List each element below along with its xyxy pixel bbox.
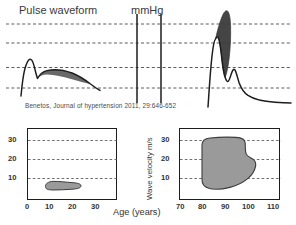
citation-text: Benetos, Journal of hypertension 2011, 2… [25,103,176,109]
pulse-waveform-panel: Pulse waveform mmHg [0,0,296,112]
chart-left-gridlines [28,141,118,179]
data-region-old [202,137,256,189]
chart-right-ytick-10: 10 [161,174,169,182]
chart-left-xtick-30: 30 [91,203,99,211]
chart-left-xtick-20: 20 [68,203,76,211]
page-title: Pulse waveform [19,5,97,16]
chart-right-ytick-30: 30 [161,136,169,144]
waveform-young [21,59,100,96]
chart-left-ytick-10: 10 [8,174,16,182]
waveform-elderly [208,11,291,107]
chart-left-ytick-30: 30 [8,136,16,144]
pressure-trace-elderly [208,37,291,107]
chart-left-ytick-20: 20 [8,155,16,163]
chart-right-xtick-90: 90 [221,203,229,211]
y-axis-label: Wave velocity m/s [146,137,154,200]
chart-wave-velocity-young [27,128,117,200]
chart-right-xtick-110: 110 [267,203,279,211]
pressure-trace-young [21,59,100,96]
chart-right-xtick-80: 80 [198,203,206,211]
data-region-young [46,181,82,190]
chart-left-xtick-0: 0 [25,203,29,211]
chart-right-plot-area [180,129,281,201]
chart-right-xtick-100: 100 [242,203,255,211]
chart-left-xtick-10: 10 [45,203,53,211]
x-axis-label: Age (years) [113,208,161,217]
chart-left-plot-area [28,129,118,201]
chart-right-ytick-20: 20 [161,155,169,163]
unit-label: mmHg [131,5,163,16]
chart-right-xtick-70: 70 [176,203,184,211]
figure-root: Pulse waveform mmHg Benetos, Journal of … [0,0,296,225]
chart-wave-velocity-old [179,128,280,200]
mmhg-scale-bars [137,14,161,103]
pulse-waveform-graphic [0,0,296,112]
waveform-gridlines [6,24,290,88]
